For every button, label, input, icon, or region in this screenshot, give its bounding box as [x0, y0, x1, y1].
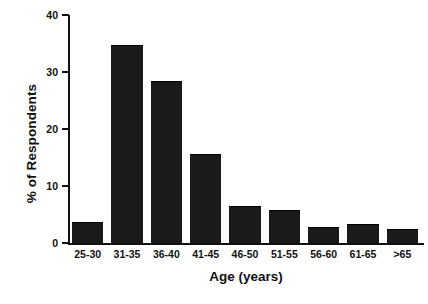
bar: [269, 210, 300, 243]
bar: [151, 81, 182, 243]
y-tick-label: 30: [22, 67, 58, 78]
x-tick-label: >65: [383, 249, 422, 260]
bar: [347, 224, 378, 243]
bar: [229, 206, 260, 243]
bar: [190, 154, 221, 243]
x-axis-line: [68, 243, 424, 245]
x-tick-label: 25-30: [68, 249, 107, 260]
x-tick-label: 41-45: [186, 249, 225, 260]
y-tick-label: 40: [22, 10, 58, 21]
plot-area: [68, 15, 422, 243]
y-tick-label: 20: [22, 124, 58, 135]
x-tick-label: 51-55: [265, 249, 304, 260]
bar: [308, 227, 339, 243]
x-tick-label: 31-35: [107, 249, 146, 260]
x-tick-label: 61-65: [343, 249, 382, 260]
x-tick-label: 46-50: [225, 249, 264, 260]
y-tick-label: 0: [22, 238, 58, 249]
y-tick-label: 10: [22, 181, 58, 192]
x-tick-label: 36-40: [147, 249, 186, 260]
x-axis-title: Age (years): [68, 269, 424, 284]
bar: [387, 229, 418, 243]
bar: [111, 45, 142, 243]
x-tick-label: 56-60: [304, 249, 343, 260]
bar: [72, 222, 103, 243]
bar-chart-figure: % of Respondents 010203040 25-3031-3536-…: [0, 0, 428, 304]
